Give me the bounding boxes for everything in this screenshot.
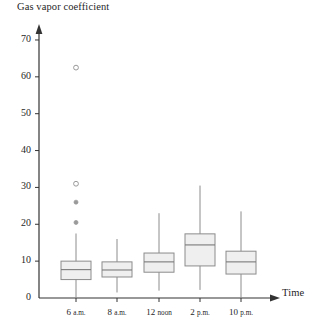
x-tick-label-unit: p.m. <box>240 309 253 317</box>
outlier-point-filled <box>74 220 78 224</box>
box-rect <box>144 253 174 272</box>
box-rect <box>61 261 91 279</box>
box-rect <box>226 251 256 274</box>
y-tick-label: 30 <box>9 180 31 191</box>
outlier-point-open <box>74 65 79 70</box>
y-tick-label: 0 <box>9 291 31 302</box>
x-tick-label: 6 a.m. <box>66 307 85 317</box>
x-tick-label: 8 a.m. <box>107 307 126 317</box>
x-axis-arrow-icon <box>270 295 280 302</box>
x-tick-label-unit: p.m. <box>197 309 210 317</box>
y-tick-label: 70 <box>9 33 31 44</box>
y-tick-label: 10 <box>9 254 31 265</box>
x-tick-label-number: 12 <box>146 307 157 317</box>
box-rect <box>102 262 132 277</box>
outlier-point-filled <box>74 200 78 204</box>
y-tick-label: 40 <box>9 144 31 155</box>
y-tick-label: 60 <box>9 70 31 81</box>
box-plot-figure: Gas vapor coefficient Time 0102030405060… <box>0 0 317 333</box>
x-tick-label: 2 p.m. <box>190 307 210 317</box>
x-tick-label-number: 10 <box>229 307 240 317</box>
x-tick-label-unit: a.m. <box>73 309 85 317</box>
x-tick-label-number: 8 <box>107 307 114 317</box>
y-axis-arrow-icon <box>36 24 43 34</box>
x-tick-label-unit: a.m. <box>114 309 126 317</box>
outlier-point-open <box>74 181 79 186</box>
x-tick-label: 12 noon <box>146 307 172 317</box>
x-tick-label-unit: noon <box>157 309 171 317</box>
x-tick-label-number: 6 <box>66 307 73 317</box>
y-tick-label: 20 <box>9 217 31 228</box>
box-plot-canvas <box>0 0 317 333</box>
y-tick-label: 50 <box>9 107 31 118</box>
x-tick-label-number: 2 <box>190 307 197 317</box>
x-tick-label: 10 p.m. <box>229 307 253 317</box>
box-rect <box>185 234 215 266</box>
